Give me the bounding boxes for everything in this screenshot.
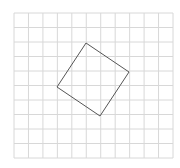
- rotated-square: [57, 43, 129, 116]
- grid-diagram: [0, 0, 180, 168]
- grid-lines: [14, 13, 173, 158]
